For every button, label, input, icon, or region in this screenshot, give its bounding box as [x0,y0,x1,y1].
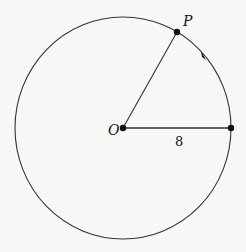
label-o: O [108,122,120,138]
circle-diagram: O P 8 [0,0,246,252]
label-radius: 8 [175,134,183,149]
radius-op [123,32,177,128]
point-p [174,29,180,35]
start-point [228,125,234,131]
center-point [120,125,126,131]
label-p: P [182,13,193,29]
